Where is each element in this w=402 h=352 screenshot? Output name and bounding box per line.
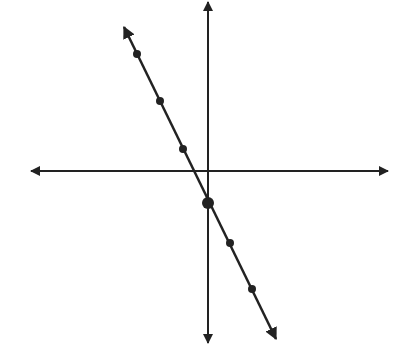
data-point — [226, 239, 234, 247]
data-point — [248, 285, 256, 293]
y-intercept-point — [202, 197, 214, 209]
data-point — [156, 97, 164, 105]
coordinate-plane — [0, 0, 402, 352]
data-point — [133, 50, 141, 58]
data-point — [179, 145, 187, 153]
